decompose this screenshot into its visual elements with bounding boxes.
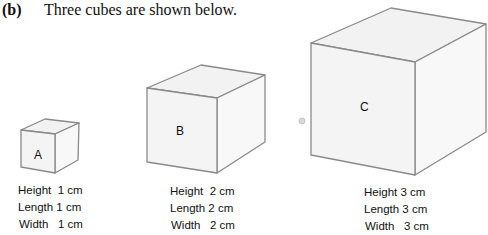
cube-c-length: Length 3 cm	[364, 201, 429, 218]
cube-b-label: B	[176, 124, 184, 138]
cube-b-length: Length 2 cm	[170, 200, 235, 217]
cube-c	[311, 8, 486, 175]
cube-a-label: A	[34, 148, 42, 162]
cube-a-height: Height 1 cm	[18, 182, 83, 199]
cube-c-height: Height 3 cm	[364, 184, 429, 201]
cube-c-label: C	[360, 100, 369, 114]
cube-b-width: Width 2 cm	[170, 217, 235, 234]
cube-a-width: Width 1 cm	[18, 216, 83, 233]
cube-b	[147, 65, 265, 173]
dot-mark	[299, 118, 305, 124]
cube-a-length: Length 1 cm	[18, 199, 83, 216]
cube-c-width: Width 3 cm	[364, 218, 429, 235]
cube-a-dimensions: Height 1 cm Length 1 cm Width 1 cm	[18, 182, 83, 233]
cube-a	[21, 119, 79, 173]
cube-b-height: Height 2 cm	[170, 183, 235, 200]
cube-b-dimensions: Height 2 cm Length 2 cm Width 2 cm	[170, 183, 235, 234]
cube-c-dimensions: Height 3 cm Length 3 cm Width 3 cm	[364, 184, 429, 235]
